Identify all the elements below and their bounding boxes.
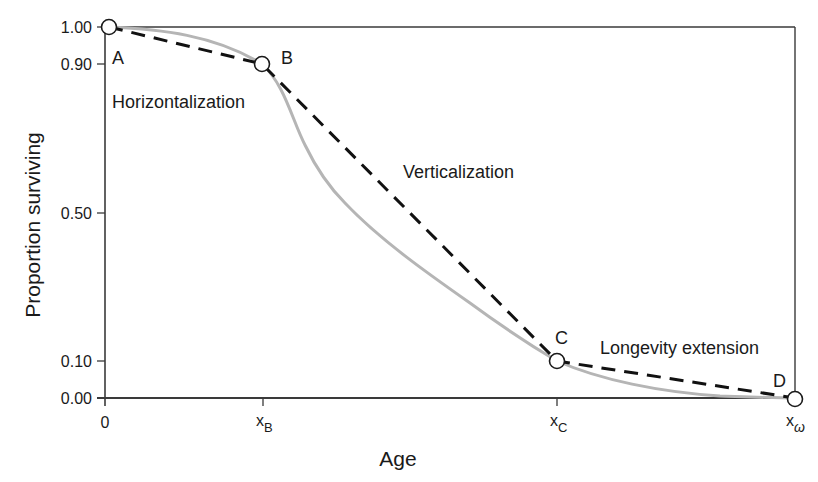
point-c-label: C — [555, 328, 568, 348]
x-tick-label-xc: xC — [550, 412, 567, 435]
point-b-marker — [255, 57, 270, 72]
y-axis-title: Proportion surviving — [21, 132, 44, 318]
point-d-marker — [788, 392, 803, 407]
y-tick-label: 0.90 — [61, 56, 92, 73]
y-tick-label: 1.00 — [61, 19, 92, 36]
y-tick-label: 0.00 — [61, 390, 92, 407]
point-b-label: B — [281, 48, 293, 68]
annotation-verticalization: Verticalization — [403, 162, 514, 182]
x-tick-label-0: 0 — [101, 414, 110, 431]
y-tick-label: 0.10 — [61, 353, 92, 370]
x-ticks: 0 xB xC xω — [101, 398, 805, 435]
x-axis-title: Age — [379, 447, 416, 470]
x-tick-label-xb: xB — [256, 412, 273, 435]
y-ticks: 1.00 0.90 0.50 0.10 0.00 — [61, 19, 105, 407]
point-c-marker — [550, 354, 565, 369]
x-tick-label-xomega: xω — [786, 412, 805, 435]
annotation-longevity-extension: Longevity extension — [600, 338, 759, 358]
annotation-horizontalization: Horizontalization — [112, 92, 245, 112]
point-a-label: A — [112, 48, 124, 68]
y-tick-label: 0.50 — [61, 205, 92, 222]
point-d-label: D — [773, 371, 786, 391]
point-a-marker — [102, 20, 117, 35]
survival-chart: 1.00 0.90 0.50 0.10 0.00 0 xB xC xω Age … — [0, 0, 818, 482]
